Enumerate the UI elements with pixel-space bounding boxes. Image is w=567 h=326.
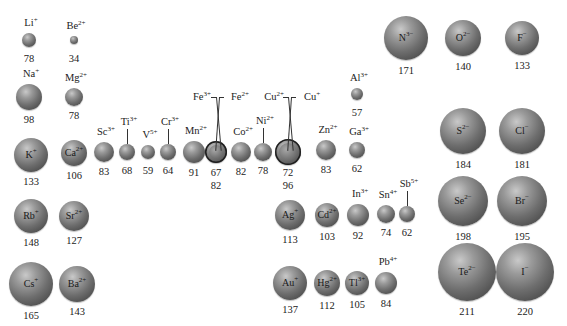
ion-ga-sphere [349, 142, 365, 158]
ion-symbol: V [142, 129, 150, 140]
ion-al-sphere [351, 88, 363, 100]
ion-charge: 2− [462, 123, 469, 131]
ion-hg-sphere: Hg2+ [314, 270, 340, 296]
ion-symbol: K [25, 149, 32, 160]
ion-f-label: F− [505, 33, 539, 43]
ion-pb-sphere [375, 272, 397, 294]
ion-symbol: Ba [68, 278, 79, 289]
ion-pair-fe-label-2: Fe2+ [231, 92, 249, 103]
ion-sc-radius-value: 83 [99, 167, 110, 178]
ion-cr-leader [168, 129, 169, 144]
ion-symbol: Sr [66, 210, 75, 221]
ion-ti-sphere [119, 144, 135, 160]
ion-symbol: Sc [97, 126, 108, 137]
ion-cd-sphere: Cd2+ [315, 203, 339, 227]
ion-ag-label: Ag+ [275, 210, 305, 220]
ion-symbol: Cs [24, 278, 35, 289]
ion-ag-radius-value: 113 [282, 235, 297, 246]
ion-symbol: Cu [264, 91, 276, 102]
ion-symbol: Fe [231, 91, 242, 102]
ion-n-sphere: N3− [384, 16, 428, 60]
ion-ni-radius-value: 78 [258, 166, 269, 177]
ion-mn-label: Mn2+ [185, 126, 207, 137]
ion-charge: 2+ [200, 124, 207, 132]
ion-zn-sphere [316, 140, 336, 160]
ion-cd-label: Cd2+ [315, 210, 339, 220]
ion-be-sphere [70, 36, 78, 44]
ion-cr-label: Cr3+ [161, 117, 179, 128]
ion-co-label: Co2+ [233, 127, 253, 138]
ion-te-label: Te2− [438, 267, 496, 277]
ion-al-label: Al3+ [350, 73, 368, 84]
ion-symbol: Au [282, 277, 294, 288]
ion-symbol: Ni [256, 115, 267, 126]
ion-charge: + [35, 208, 39, 216]
ion-mg-sphere [65, 88, 83, 106]
ion-k-label: K+ [14, 150, 48, 160]
ion-s-label: S2− [440, 126, 486, 136]
ion-in-label: In3+ [352, 189, 368, 200]
ion-al-radius-value: 57 [352, 108, 363, 119]
ion-k-radius-value: 133 [23, 177, 39, 188]
ion-charge: 2+ [78, 19, 85, 27]
ion-sc-sphere [94, 142, 114, 162]
ion-au-label: Au+ [273, 278, 307, 288]
ion-symbol: Cr [161, 116, 172, 127]
ion-o-radius-value: 140 [455, 62, 471, 73]
ion-ti-label: Ti3+ [121, 117, 137, 128]
ion-sn-radius-value: 74 [381, 228, 392, 239]
ion-pb-label: Pb4+ [379, 257, 398, 268]
ion-cs-sphere: Cs+ [9, 262, 53, 306]
ion-symbol: Al [350, 72, 361, 83]
ion-charge: 4+ [390, 188, 397, 196]
ion-cs-label: Cs+ [9, 279, 53, 289]
ion-sb-sphere [399, 206, 415, 222]
ion-se-sphere: Se2− [438, 176, 488, 226]
ion-se-label: Se2− [438, 196, 488, 206]
ion-symbol: Zn [318, 124, 330, 135]
ion-ca-sphere: Ca2+ [61, 140, 87, 166]
ion-symbol: Be [66, 20, 78, 31]
ion-symbol: Ga [349, 126, 361, 137]
ion-symbol: Co [233, 126, 245, 137]
ion-n-label: N3− [384, 33, 428, 43]
ion-charge: + [35, 67, 39, 75]
ion-sb-label: Sb5+ [400, 179, 419, 190]
ion-ti-radius-value: 68 [122, 166, 133, 177]
ion-ca-label: Ca2+ [61, 148, 87, 158]
ion-cs-radius-value: 165 [23, 311, 39, 322]
ion-hg-label: Hg2+ [314, 278, 340, 288]
ion-charge: 3− [406, 30, 413, 38]
ion-charge: 3+ [361, 187, 368, 195]
ion-charge: 3+ [130, 115, 137, 123]
ion-charge: + [294, 275, 298, 283]
ion-symbol: Sb [400, 178, 411, 189]
ion-rb-radius-value: 148 [23, 238, 39, 249]
ion-charge: 2+ [80, 71, 87, 79]
ion-symbol: Na [23, 68, 35, 79]
ion-symbol: Tl [349, 277, 358, 288]
ion-s-sphere: S2− [440, 108, 486, 154]
ion-symbol: Te [458, 266, 468, 277]
ion-charge: 3+ [358, 275, 365, 283]
ion-te-sphere: Te2− [438, 243, 496, 301]
ion-i-radius-value: 220 [517, 307, 533, 318]
ion-charge: + [34, 276, 38, 284]
ion-charge: + [33, 147, 37, 155]
ion-charge: + [34, 16, 38, 24]
ion-n-radius-value: 171 [398, 66, 414, 77]
ion-ni-label: Ni2+ [256, 116, 274, 127]
ion-v-radius-value: 59 [143, 166, 154, 177]
ion-i-sphere: I− [496, 243, 554, 301]
ion-in-sphere [347, 204, 369, 226]
ion-pair-fe-radius-1: 67 [211, 168, 222, 179]
ion-symbol: N [399, 32, 406, 43]
ion-i-label: I− [496, 267, 554, 277]
ion-symbol: Hg [317, 277, 329, 288]
ion-f-radius-value: 133 [514, 61, 530, 72]
ion-sb-radius-value: 62 [402, 228, 413, 239]
ion-na-radius-value: 98 [24, 115, 35, 126]
ion-charge: 4+ [390, 255, 397, 263]
ion-cd-radius-value: 103 [319, 232, 335, 243]
ion-charge: 2− [463, 30, 470, 38]
